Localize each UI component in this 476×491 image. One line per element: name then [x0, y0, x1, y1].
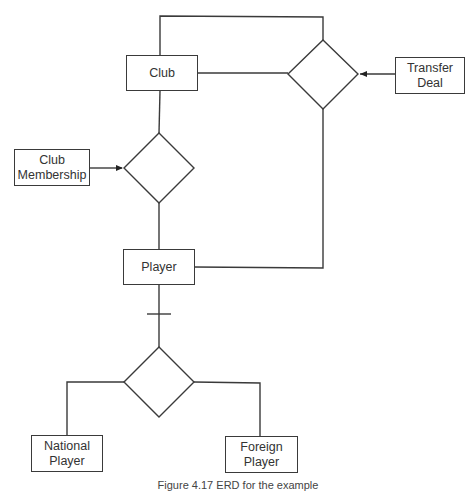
- membership-relationship-diamond: [124, 133, 194, 203]
- entity-player: Player: [123, 249, 195, 285]
- subtype-diamond: [124, 347, 194, 417]
- arrowhead-icon: [116, 165, 123, 171]
- arrowhead-icon: [360, 71, 367, 77]
- entity-club: Club: [126, 55, 198, 91]
- entity-foreign-player: Foreign Player: [225, 436, 298, 473]
- entity-club-membership: Club Membership: [14, 149, 90, 186]
- club-membership-line: [159, 91, 160, 133]
- entity-transfer-deal: Transfer Deal: [395, 57, 465, 94]
- club-transfer-top-line: [160, 16, 323, 55]
- transfer-player-line: [194, 109, 323, 268]
- transfer-relationship-diamond: [288, 40, 358, 109]
- foreign-player-line: [194, 382, 260, 436]
- national-player-line: [67, 382, 124, 435]
- figure-caption: Figure 4.17 ERD for the example: [0, 479, 476, 491]
- entity-national-player: National Player: [31, 435, 103, 472]
